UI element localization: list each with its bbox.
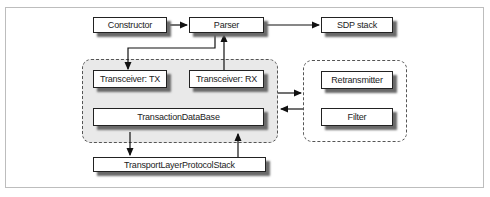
transceiver-rx-node: Transceiver: RX — [189, 70, 264, 88]
figure-caption-truncated — [6, 192, 86, 197]
transceiver-tx-node: Transceiver: TX — [93, 70, 167, 88]
parser-node: Parser — [189, 17, 264, 33]
constructor-node: Constructor — [93, 17, 167, 33]
filter-node: Filter — [321, 108, 393, 126]
transaction-database-node: TransactionDataBase — [93, 108, 264, 126]
transport-layer-protocol-stack-node: TransportLayerProtocolStack — [93, 157, 266, 172]
retransmitter-node: Retransmitter — [321, 71, 393, 89]
sdp-stack-node: SDP stack — [321, 17, 393, 33]
